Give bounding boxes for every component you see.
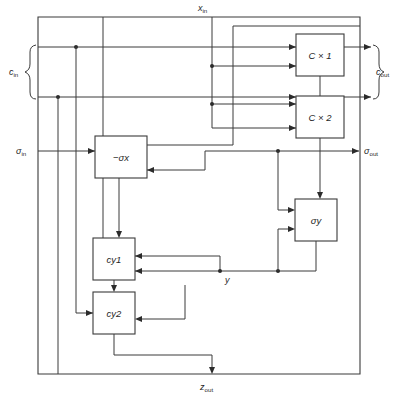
wire-x-in — [212, 17, 296, 131]
block-diagram-canvas: C × 1 C × 2 −σx σy cy1 cy2 — [0, 0, 399, 398]
port-sigma-out-label: σout — [364, 146, 378, 157]
block-cx1-label: C × 1 — [309, 50, 332, 61]
wire-sigma-out — [205, 148, 359, 154]
wire-cy2-to-z-out — [114, 334, 215, 374]
block-cy2[interactable]: cy2 — [93, 292, 135, 334]
wire-y-rail — [135, 268, 316, 274]
block-sigma-x-label: −σx — [113, 152, 130, 163]
port-x-in-label: xin — [197, 3, 208, 14]
c-in-brace — [25, 45, 36, 99]
wire-cy1-to-cy2 — [111, 280, 117, 292]
block-cx2[interactable]: C × 2 — [296, 96, 344, 138]
wire-into-cy2-right — [135, 285, 185, 322]
wire-c-out-lower — [344, 94, 371, 100]
port-c-in-label: cin — [9, 67, 19, 78]
wire-c-out-upper — [344, 44, 371, 50]
block-cy2-label: cy2 — [107, 308, 123, 319]
wire-c-in-lower — [38, 94, 296, 100]
block-cy1[interactable]: cy1 — [93, 238, 135, 280]
circuit-schematic: C × 1 C × 2 −σx σy cy1 cy2 — [0, 0, 399, 398]
port-z-out-label: zout — [199, 382, 213, 393]
wire-c-in-lower-tap — [56, 95, 60, 374]
wire-c-in-upper-tap — [74, 45, 93, 316]
block-sigma-x[interactable]: −σx — [95, 136, 147, 178]
wire-cx2-to-sigma-y — [317, 138, 323, 199]
block-cx1[interactable]: C × 1 — [296, 34, 344, 76]
wire-sigma-x-to-cy1 — [116, 178, 122, 238]
signal-y-label: y — [224, 275, 230, 285]
wire-x-in-branch-cx1 — [210, 101, 296, 107]
block-cy1-label: cy1 — [107, 254, 122, 265]
block-sigma-y-label: σy — [311, 215, 323, 226]
block-cx2-label: C × 2 — [309, 112, 333, 123]
port-sigma-in-label: σin — [16, 146, 27, 157]
wire-sigma-x-return — [147, 151, 205, 173]
port-c-out-label: cout — [376, 67, 389, 78]
wire-y-into-cy1 — [135, 253, 222, 273]
wire-x-in-branch-cx2 — [210, 63, 296, 69]
wire-sigma-in — [38, 148, 95, 154]
block-sigma-y[interactable]: σy — [295, 199, 337, 241]
wire-sigma-out-tap-sigma-y — [278, 151, 295, 213]
